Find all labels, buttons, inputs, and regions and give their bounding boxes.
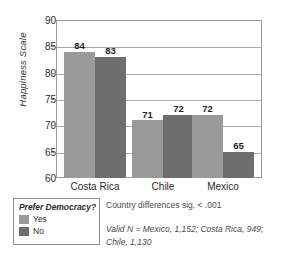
significance-note: Country differences sig. < .001 <box>106 200 221 210</box>
bar-mexico-yes[interactable] <box>192 115 223 178</box>
bar-group-chile <box>132 20 194 178</box>
bar-group-mexico <box>192 20 254 178</box>
bar-chile-no[interactable] <box>163 115 194 178</box>
legend-item-no[interactable]: No <box>19 226 95 236</box>
x-tick-label-costa-rica: Costa Rica <box>71 181 120 192</box>
bars-layer: 84 83 71 72 72 65 <box>56 20 262 178</box>
legend: Prefer Democracy? Yes No <box>13 198 100 245</box>
bar-value-chile-no: 72 <box>173 103 184 114</box>
bar-value-chile-yes: 71 <box>142 109 153 120</box>
legend-label-no: No <box>33 226 44 236</box>
bar-costa-rica-no[interactable] <box>95 57 126 178</box>
y-tick-label-90: 90 <box>26 15 56 26</box>
bar-value-mexico-no: 65 <box>233 140 244 151</box>
valid-n-note: Valid N = Mexico, 1,152; Costa Rica, 949… <box>106 223 278 249</box>
y-tick-label-60: 60 <box>26 173 56 184</box>
legend-item-yes[interactable]: Yes <box>19 214 95 224</box>
bar-costa-rica-yes[interactable] <box>64 52 95 178</box>
bar-value-costa-rica-yes: 84 <box>74 40 85 51</box>
bar-chart-figure: Happiness Scale 90 85 80 75 70 65 60 <box>0 0 282 267</box>
legend-swatch-yes-icon <box>19 215 29 224</box>
x-tick-label-mexico: Mexico <box>207 181 239 192</box>
legend-title: Prefer Democracy? <box>19 202 95 212</box>
legend-label-yes: Yes <box>33 214 47 224</box>
bar-mexico-no[interactable] <box>223 152 254 178</box>
x-tick-label-chile: Chile <box>152 181 175 192</box>
bar-value-costa-rica-no: 83 <box>105 45 116 56</box>
bar-value-mexico-yes: 72 <box>202 103 213 114</box>
legend-swatch-no-icon <box>19 227 29 236</box>
bar-chile-yes[interactable] <box>132 120 163 178</box>
